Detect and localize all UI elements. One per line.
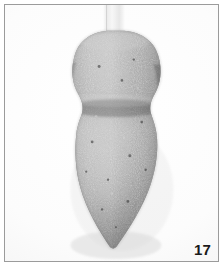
plate-frame: 17 [4,4,219,262]
figure-plate: 17 [0,0,224,267]
stone-artifact [5,5,218,261]
photo-area: 17 [5,5,218,261]
figure-number: 17 [194,242,211,257]
